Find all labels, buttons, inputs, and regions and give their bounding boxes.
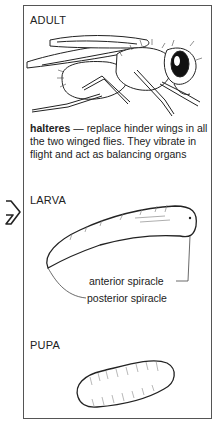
pupa-heading: PUPA: [30, 339, 60, 351]
posterior-spiracle-label: posterior spiracle: [87, 292, 167, 304]
pupa-illustration: [72, 355, 180, 410]
posterior-leader-line: [48, 268, 86, 298]
anterior-spiracle-label: anterior spiracle: [89, 275, 164, 287]
anterior-leader-line: [176, 236, 190, 281]
